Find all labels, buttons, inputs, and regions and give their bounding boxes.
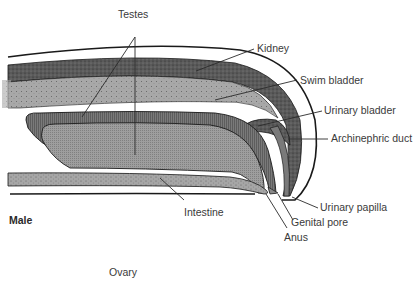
leader-urinary-papilla xyxy=(292,197,318,208)
label-genital-pore: Genital pore xyxy=(291,216,348,228)
leader-anus xyxy=(266,194,287,228)
label-kidney: Kidney xyxy=(257,42,290,54)
label-intestine: Intestine xyxy=(184,206,224,218)
label-section-male: Male xyxy=(9,214,33,226)
intestine-region xyxy=(8,173,268,194)
label-testes: Testes xyxy=(118,8,148,20)
cut-edge-stipple xyxy=(2,80,11,108)
label-swim-bladder: Swim bladder xyxy=(300,74,364,86)
lower-body-wall xyxy=(10,194,255,195)
label-urinary-papilla: Urinary papilla xyxy=(320,201,387,213)
label-ovary: Ovary xyxy=(109,266,138,278)
label-anus: Anus xyxy=(284,231,308,243)
fish-urogenital-diagram: Testes Kidney Swim bladder Urinary bladd… xyxy=(0,0,417,281)
label-urinary-bladder: Urinary bladder xyxy=(324,104,396,116)
label-archinephric-duct: Archinephric duct xyxy=(331,132,412,144)
